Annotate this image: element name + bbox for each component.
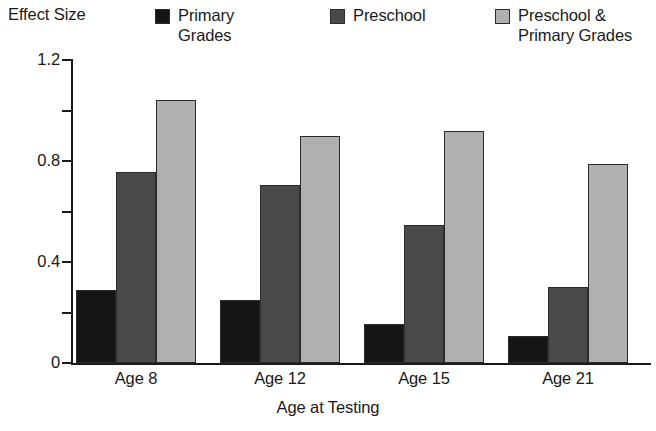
x-tick-label: Age 15 [359,369,489,388]
bar [404,225,444,363]
bar [220,300,260,363]
x-axis-title: Age at Testing [0,398,656,417]
bars-layer [0,0,656,431]
bar [508,336,548,363]
x-tick-label: Age 21 [503,369,633,388]
bar [156,100,196,363]
bar [116,172,156,363]
bar [548,287,588,363]
bar [444,131,484,363]
bar [76,290,116,363]
bar [260,185,300,363]
bar [300,136,340,363]
bar [364,324,404,363]
bar [588,164,628,363]
x-tick-label: Age 12 [215,369,345,388]
x-tick-label: Age 8 [71,369,201,388]
plot-area: 00.40.81.2 Age 8Age 12Age 15Age 21 [0,0,656,431]
bar-chart: Effect Size Primary Grades Preschool Pre… [0,0,656,431]
